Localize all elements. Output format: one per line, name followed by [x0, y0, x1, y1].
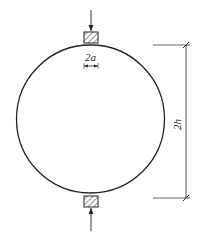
bottom-loading-strip — [84, 196, 98, 207]
strip-width-label: 2a — [85, 51, 97, 63]
height-label: 2h — [171, 119, 183, 131]
top-loading-strip — [84, 32, 98, 43]
top-load-arrow-icon — [89, 10, 94, 31]
disk-circle — [17, 45, 165, 193]
height-dimension: 2h — [153, 42, 190, 201]
diagram-canvas: 2a 2h — [0, 0, 204, 242]
bottom-load-arrow-icon — [89, 208, 94, 231]
strip-width-dimension: 2a — [84, 51, 98, 69]
